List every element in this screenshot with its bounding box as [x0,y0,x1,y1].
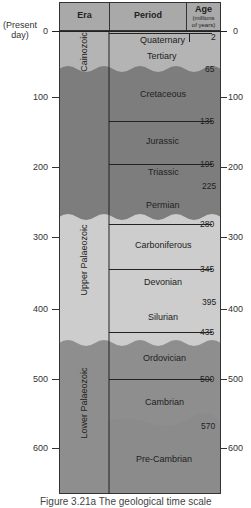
left-scale-300: 300 [18,232,48,242]
era-label-cainozoic: Cainozoic [79,28,89,76]
header-period: Period [109,2,187,31]
left-tick-400 [52,309,59,310]
right-scale-0: 0 [233,26,238,36]
header-era: Era [59,2,110,31]
left-tick-300 [52,237,59,238]
left-scale-0: 0 [18,26,48,36]
header-age: Age (millions of years) [186,2,221,31]
right-scale-400: 400 [228,304,243,314]
period-jurassic: Jurassic [146,136,179,146]
age-395: 395 [202,297,216,307]
age-570: 570 [201,421,215,431]
period-cretaceous: Cretaceous [140,89,186,99]
right-scale-100: 100 [228,92,243,102]
right-tick-400 [221,309,227,310]
left-scale-400: 400 [18,304,48,314]
boundary-135 [109,121,212,122]
left-scale-200: 200 [18,162,48,172]
period-triassic: Triassic [148,167,179,177]
age-65: 65 [205,64,214,74]
boundary-280 [109,224,212,225]
era-label-upper-palaeozoic: Upper Palaeozoic [79,220,89,300]
age-500: 500 [200,374,214,384]
period-tertiary: Tertiary [147,51,177,61]
header-period-label: Period [110,10,186,20]
period-carboniferous: Carboniferous [135,240,192,250]
right-scale-500: 500 [228,374,243,384]
figure-caption: Figure 3.21a The geological time scale [40,496,212,507]
boundary-435 [109,332,212,333]
left-scale-100: 100 [18,92,48,102]
age-225: 225 [202,181,216,191]
left-scale-500: 500 [18,374,48,384]
age-195: 195 [200,159,214,169]
header-age-sub1: (millions [187,15,220,21]
period-ordovician: Ordovician [143,353,186,363]
header-era-label: Era [60,10,109,20]
age-2: 2 [211,32,216,42]
age-435: 435 [200,327,214,337]
period-precambrian: Pre-Cambrian [136,454,192,464]
right-scale-200: 200 [228,162,243,172]
right-scale-300: 300 [228,232,243,242]
quaternary-arrow-icon [189,33,190,42]
right-tick-600 [221,448,227,449]
right-scale-600: 600 [228,443,243,453]
quaternary-line [109,33,212,34]
left-scale-600: 600 [18,443,48,453]
boundary-500 [109,379,212,380]
left-tick-500 [52,379,59,380]
right-tick-200 [221,167,227,168]
age-345: 345 [200,264,214,274]
right-tick-500 [221,379,227,380]
period-devonian: Devonian [144,277,182,287]
period-permian: Permian [146,200,180,210]
age-280: 280 [200,219,214,229]
period-silurian: Silurian [148,312,178,322]
boundary-195 [109,164,212,165]
age-135: 135 [200,116,214,126]
left-tick-600 [52,448,59,449]
boundary-345 [109,269,212,270]
header-age-label: Age [187,4,220,14]
right-tick-100 [221,97,227,98]
period-cambrian: Cambrian [145,397,184,407]
right-tick-300 [221,237,227,238]
left-tick-200 [52,167,59,168]
era-label-lower-palaeozoic: Lower Palaeozoic [79,363,89,443]
left-tick-100 [52,97,59,98]
header-age-sub2: of years) [187,22,220,28]
period-quaternary: Quaternary [140,35,185,45]
